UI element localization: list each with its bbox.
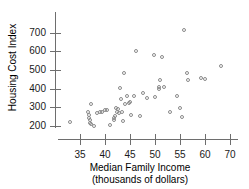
y-tick-label: 500 (18, 65, 46, 75)
data-point (68, 120, 72, 124)
data-point (89, 102, 93, 106)
data-point (119, 97, 123, 101)
y-tick (50, 126, 61, 127)
x-tick (205, 134, 206, 145)
x-tick-label: 55 (168, 150, 192, 160)
data-point (178, 106, 182, 110)
x-tick-label: 35 (68, 150, 92, 160)
x-tick-label: 45 (118, 150, 142, 160)
x-tick (105, 134, 106, 145)
data-point (129, 113, 133, 117)
x-tick (80, 134, 81, 145)
x-axis-line (58, 139, 238, 140)
x-tick (130, 134, 131, 145)
x-tick-label: 60 (193, 150, 217, 160)
x-axis-title: Median Family Income (thousands of dolla… (40, 162, 240, 186)
data-point (105, 108, 109, 112)
data-point (112, 118, 116, 122)
x-tick (180, 134, 181, 145)
data-point (108, 123, 112, 127)
x-tick (230, 134, 231, 145)
y-tick-label: 600 (18, 46, 46, 56)
data-point (145, 96, 149, 100)
data-point (141, 91, 145, 95)
y-tick (50, 89, 61, 90)
data-point (132, 94, 136, 98)
data-point (219, 64, 223, 68)
data-point (160, 55, 164, 59)
plot-area: 200300400500600700 35404550556070 Housin… (0, 0, 249, 189)
y-tick (50, 70, 61, 71)
y-tick-label: 400 (18, 84, 46, 94)
data-point (157, 87, 161, 91)
x-axis-title-line2: (thousands of dollars) (40, 174, 240, 186)
data-point (152, 53, 156, 57)
y-tick-label: 200 (18, 121, 46, 131)
y-tick (50, 51, 61, 52)
data-point (180, 115, 184, 119)
data-point (121, 119, 125, 123)
x-tick-label: 50 (143, 150, 167, 160)
data-point (158, 78, 162, 82)
y-tick (50, 107, 61, 108)
data-point (185, 71, 189, 75)
y-tick (50, 33, 61, 34)
data-point (186, 78, 190, 82)
data-point (125, 94, 129, 98)
data-point (120, 110, 124, 114)
x-tick-label: 70 (218, 150, 242, 160)
data-point (122, 71, 126, 75)
data-point (182, 28, 186, 32)
data-point (175, 94, 179, 98)
data-point (118, 86, 122, 90)
data-point (203, 77, 207, 81)
data-point (134, 49, 138, 53)
data-point (128, 100, 132, 104)
y-tick-label: 700 (18, 28, 46, 38)
data-point (168, 110, 172, 114)
data-point (153, 95, 157, 99)
y-tick-label: 300 (18, 102, 46, 112)
x-tick-label: 40 (93, 150, 117, 160)
data-point (92, 124, 96, 128)
data-point (162, 85, 166, 89)
data-point (138, 114, 142, 118)
x-axis-title-line1: Median Family Income (40, 162, 240, 174)
scatter-plot-figure: 200300400500600700 35404550556070 Housin… (0, 0, 249, 189)
x-tick (155, 134, 156, 145)
y-axis-title: Housing Cost Index (7, 8, 18, 128)
